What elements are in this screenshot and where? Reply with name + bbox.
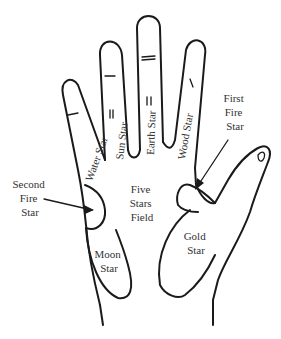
label-gold-star: Gold Star xyxy=(184,230,209,256)
arrow-head-icon xyxy=(84,205,94,214)
palm-diagram: Water Star Sun Star Earth Star Wood Star… xyxy=(0,0,281,339)
first-fire-arrow xyxy=(197,140,228,187)
label-sun-star: Sun Star xyxy=(113,121,130,160)
label-five-stars-field: Five Stars Field xyxy=(130,183,155,223)
palm-regions xyxy=(85,152,265,298)
label-moon-star: Moon Star xyxy=(94,248,123,274)
label-second-fire-star: Second Fire Star xyxy=(12,178,47,218)
label-earth-star: Earth Star xyxy=(144,110,158,155)
label-first-fire-star: First Fire Star xyxy=(224,92,247,132)
